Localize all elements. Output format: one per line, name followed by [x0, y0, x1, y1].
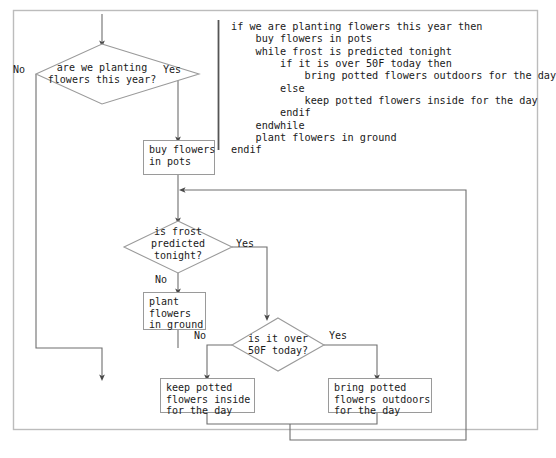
edge-label-d1-no: No	[13, 64, 25, 75]
decision-d1-label: are we planting flowers this year?	[36, 62, 168, 86]
edge-d1-no	[36, 74, 102, 378]
edge-d2-yes	[232, 247, 267, 318]
edge-label-d1-yes: Yes	[163, 64, 181, 75]
edge-label-d2-no: No	[155, 274, 167, 285]
process-keep-potted: keep potted flowers inside for the day	[160, 378, 255, 413]
pseudocode-block: if we are planting flowers this year the…	[231, 21, 556, 157]
edge-label-d3-yes: Yes	[329, 330, 347, 341]
decision-d3-label: is it over 50F today?	[232, 333, 324, 357]
decision-d2-label: is frost predicted tonight?	[124, 226, 232, 262]
process-plant-flowers: plant flowers in ground	[143, 292, 206, 330]
process-bring-potted: bring potted flowers outdoors for the da…	[328, 378, 432, 413]
edge-d3-no	[207, 345, 232, 378]
process-buy-flowers: buy flowers in pots	[143, 140, 215, 175]
edge-d3-yes	[324, 345, 377, 378]
edge-label-d3-no: No	[194, 330, 206, 341]
edge-label-d2-yes: Yes	[236, 238, 254, 249]
